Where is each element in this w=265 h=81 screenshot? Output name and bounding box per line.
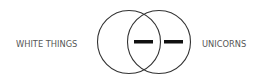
right-only-dash-mark — [164, 40, 183, 44]
intersection-dash-mark — [134, 40, 153, 44]
venn-diagram — [0, 0, 265, 81]
